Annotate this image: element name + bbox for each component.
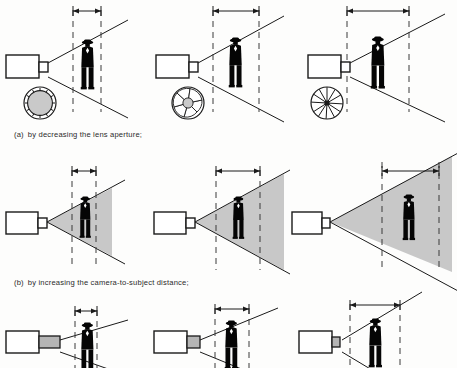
row-c-panel-1 [0,300,152,368]
ray-upper [60,320,128,340]
camera-icon [6,331,60,353]
ray-upper [342,292,422,340]
ray-upper [200,308,278,340]
row-c-clip [0,0,457,368]
telephoto-lens-barrel [39,336,60,348]
row-c [0,300,457,368]
camera-icon [299,331,340,353]
diagram-c1 [0,300,152,368]
diagram-c3 [296,300,457,368]
subject-person-icon [225,321,238,368]
ray-lower [200,352,278,368]
medium-lens-barrel [187,336,200,348]
ray-lower [342,352,422,368]
diagram-c2 [148,300,303,368]
camera-icon [154,331,200,353]
row-c-panel-3 [296,300,457,368]
wide-angle-lens-barrel [332,337,340,347]
subject-person-icon [369,319,382,368]
depth-of-field-figure: (a)by decreasing the lens aperture; [0,0,457,368]
row-c-panel-2 [148,300,303,368]
dof-measure-bar [350,300,400,310]
dof-measure-bar [215,304,249,314]
dof-measure-bar [75,306,97,316]
ray-lower [60,352,128,368]
